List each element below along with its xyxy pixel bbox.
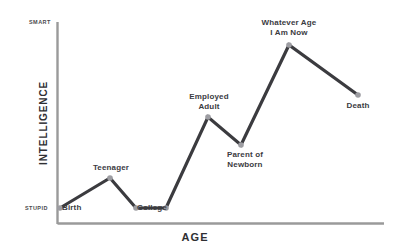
data-point-marker — [133, 205, 139, 211]
data-point-marker — [355, 92, 361, 98]
data-point-marker — [57, 205, 63, 211]
y-axis-bottom-label: STUPID — [25, 205, 48, 211]
chart-canvas — [0, 0, 394, 250]
data-point-marker — [286, 42, 292, 48]
data-point-marker — [107, 175, 113, 181]
data-point-marker — [238, 142, 244, 148]
y-axis-top-label: SMART — [29, 19, 51, 25]
x-axis-title: AGE — [181, 231, 208, 243]
intelligence-vs-age-chart: Birth Teenager College Employed Adult Pa… — [0, 0, 394, 250]
intelligence-series-line — [60, 45, 358, 208]
data-point-markers — [57, 42, 361, 211]
data-point-marker — [205, 114, 211, 120]
data-point-marker — [163, 205, 169, 211]
y-axis-title: INTELLIGENCE — [38, 81, 49, 165]
